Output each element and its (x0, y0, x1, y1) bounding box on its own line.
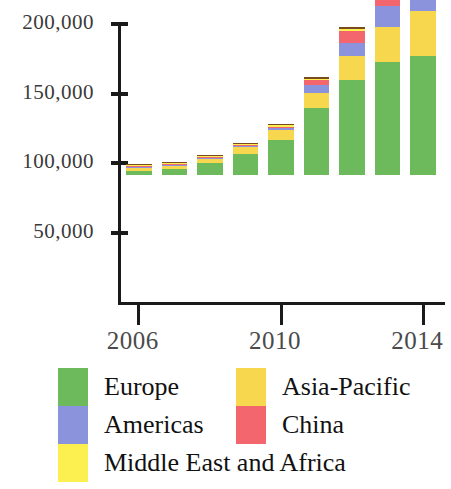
bar-segment-asia-pacific (339, 56, 365, 79)
legend-swatch-europe (58, 368, 88, 406)
bar-segment-europe (304, 108, 330, 175)
bar-2008 (197, 155, 223, 175)
bar-segment-asia-pacific (268, 130, 294, 140)
bar-segment-europe (339, 80, 365, 175)
bar-segment-europe (410, 56, 436, 175)
bar-2012 (339, 27, 365, 175)
bar-segment-europe (126, 171, 152, 175)
bar-2011 (304, 77, 330, 175)
bar-segment-asia-pacific (410, 11, 436, 57)
legend-swatch-china (236, 406, 266, 444)
bar-segment-americas (304, 85, 330, 93)
bar-segment-americas (339, 43, 365, 57)
bar-2010 (268, 124, 294, 175)
legend-label-middle-east-and-africa: Middle East and Africa (104, 448, 346, 478)
legend-swatch-middle-east-and-africa (58, 444, 88, 482)
chart-legend: EuropeAmericasMiddle East and AfricaAsia… (0, 364, 451, 489)
bar-segment-europe (162, 169, 188, 175)
bar-segment-china (339, 31, 365, 43)
legend-label-asia-pacific: Asia-Pacific (282, 372, 411, 402)
bar-segment-europe (375, 62, 401, 175)
bar-2014 (410, 0, 436, 175)
legend-swatch-asia-pacific (236, 368, 266, 406)
bar-segment-europe (233, 154, 259, 175)
bar-2006 (126, 164, 152, 175)
legend-swatch-column-right (236, 368, 266, 444)
bar-segment-europe (197, 163, 223, 175)
legend-swatch-americas (58, 406, 88, 444)
bar-2013 (375, 0, 401, 175)
legend-label-europe: Europe (104, 372, 179, 402)
bar-segment-americas (410, 0, 436, 11)
bar-segment-europe (268, 140, 294, 175)
plot-area: 200,000150,000100,00050,000 200620102014 (0, 0, 451, 362)
legend-label-china: China (282, 410, 344, 440)
bar-segment-asia-pacific (304, 93, 330, 109)
bar-2007 (162, 162, 188, 175)
bar-segment-americas (375, 6, 401, 27)
bars-layer (0, 0, 451, 362)
legend-swatch-column-left (58, 368, 88, 482)
legend-label-americas: Americas (104, 410, 204, 440)
stacked-bar-chart: 200,000150,000100,00050,000 200620102014… (0, 0, 451, 489)
bar-2009 (233, 143, 259, 175)
bar-segment-asia-pacific (375, 27, 401, 62)
